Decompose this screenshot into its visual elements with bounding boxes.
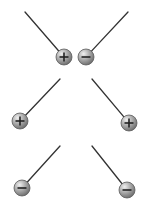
ball-pair	[14, 146, 135, 198]
thread-line	[92, 79, 124, 118]
thread-line	[92, 146, 123, 185]
diagram-canvas	[0, 0, 148, 207]
thread-line	[27, 146, 60, 183]
negative-charge-ball	[78, 49, 94, 65]
thread-line	[25, 12, 59, 52]
positive-charge-ball	[121, 115, 137, 131]
positive-charge-ball	[12, 113, 28, 129]
negative-charge-ball	[14, 180, 30, 196]
positive-charge-ball	[56, 49, 72, 65]
ball-pair	[25, 12, 128, 65]
negative-charge-ball	[119, 182, 135, 198]
thread-line	[25, 79, 60, 116]
charged-balls-diagram	[0, 0, 148, 207]
thread-line	[91, 12, 128, 52]
ball-pair	[12, 79, 137, 131]
